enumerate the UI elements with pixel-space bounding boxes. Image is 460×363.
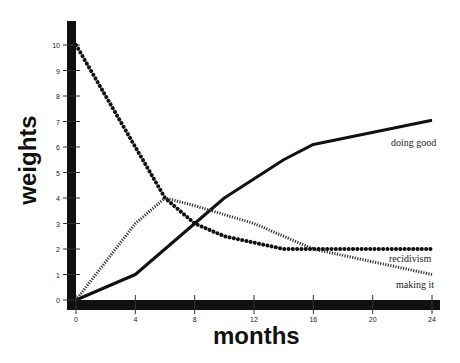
series-label-making-it: making it <box>396 279 434 290</box>
svg-text:20: 20 <box>369 316 377 323</box>
svg-text:8: 8 <box>56 93 60 100</box>
svg-text:3: 3 <box>56 221 60 228</box>
series-label-doing-good: doing good <box>391 137 436 148</box>
svg-text:2: 2 <box>56 246 60 253</box>
ticks: 01234567891004812162024 <box>52 42 436 323</box>
series-label-recidivism: recidivism <box>389 253 431 264</box>
svg-text:4: 4 <box>56 195 60 202</box>
series-doing-good <box>76 120 432 300</box>
svg-text:24: 24 <box>428 316 436 323</box>
svg-text:10: 10 <box>52 42 60 49</box>
line-chart: 01234567891004812162024 <box>0 0 460 363</box>
svg-text:0: 0 <box>74 316 78 323</box>
svg-text:4: 4 <box>133 316 137 323</box>
svg-text:16: 16 <box>309 316 317 323</box>
svg-text:8: 8 <box>193 316 197 323</box>
svg-text:6: 6 <box>56 144 60 151</box>
svg-text:5: 5 <box>56 170 60 177</box>
svg-text:0: 0 <box>56 297 60 304</box>
svg-text:9: 9 <box>56 68 60 75</box>
axes <box>67 21 440 310</box>
svg-text:1: 1 <box>56 272 60 279</box>
y-axis-label: weights <box>14 115 42 204</box>
x-axis-label: months <box>213 322 300 350</box>
series-making-it <box>76 45 432 249</box>
series-lines <box>76 45 432 300</box>
svg-text:7: 7 <box>56 119 60 126</box>
